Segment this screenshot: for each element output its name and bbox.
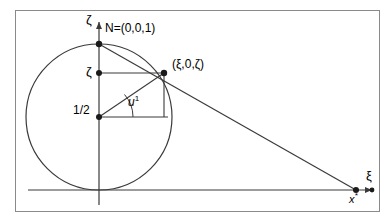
xi-axis-label: ξ [366, 169, 372, 182]
angle-label: u1 [128, 95, 139, 108]
half-label: 1/2 [73, 104, 90, 116]
angle-label-base: u [128, 95, 135, 109]
x-star-label: x* [349, 192, 358, 205]
angle-label-superscript: 1 [135, 94, 139, 103]
figure-canvas: ζ N=(0,0,1) ζ (ξ,0,ζ) 1/2 u1 ξ x* [0, 0, 391, 224]
north-pole-label: N=(0,0,1) [105, 22, 155, 34]
figure-frame [16, 11, 380, 212]
zeta-tick-label: ζ [86, 65, 92, 78]
zeta-tick-dot [96, 70, 102, 76]
surface-point-label: (ξ,0,ζ) [172, 58, 204, 70]
xi-axis-end-dot [370, 188, 375, 193]
north-pole-dot [96, 41, 102, 47]
center-dot [96, 114, 102, 120]
stereographic-projection-svg [0, 0, 391, 224]
x-star-label-superscript: * [355, 191, 358, 200]
surface-point-dot [161, 70, 167, 76]
zeta-axis-label: ζ [86, 13, 92, 26]
